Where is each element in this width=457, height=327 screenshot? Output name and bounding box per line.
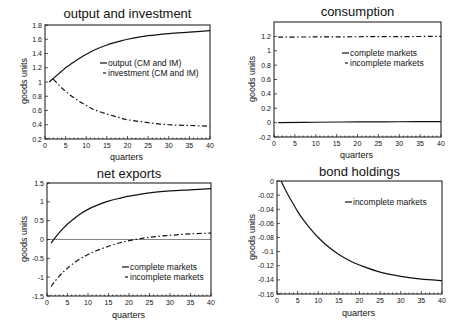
y-tick-label: -0.1	[262, 248, 274, 255]
y-tick-label: -0.06	[258, 220, 274, 227]
x-tick-label: 0	[275, 297, 279, 304]
y-tick-label: -0.02	[258, 192, 274, 199]
x-tick-label: 40	[438, 297, 446, 304]
x-tick-label: 25	[376, 297, 384, 304]
legend-label: incomplete markets	[353, 197, 427, 207]
y-tick-label: -0.04	[258, 206, 274, 213]
y-tick-label: -0.08	[258, 234, 274, 241]
y-tick-label: -0.12	[258, 262, 274, 269]
series-line	[281, 181, 442, 281]
x-tick-label: 35	[417, 297, 425, 304]
x-tick-label: 5	[296, 297, 300, 304]
x-tick-label: 20	[356, 297, 364, 304]
y-tick-label: -0.14	[258, 276, 274, 283]
x-tick-label: 15	[335, 297, 343, 304]
y-tick-label: 0	[270, 178, 274, 185]
y-tick-label: -0.16	[258, 291, 274, 298]
x-tick-label: 30	[397, 297, 405, 304]
plot-area: 0510152025303540-0.16-0.14-0.12-0.1-0.08…	[0, 0, 457, 327]
x-tick-label: 10	[314, 297, 322, 304]
